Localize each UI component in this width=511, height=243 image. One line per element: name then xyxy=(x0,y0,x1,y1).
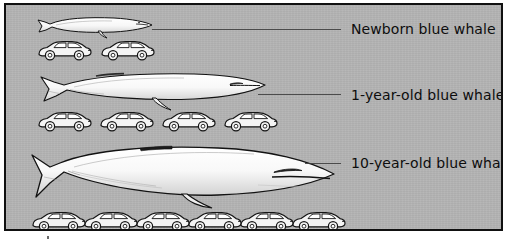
leader-line-one-year-old xyxy=(258,94,341,95)
car-icon xyxy=(238,209,295,231)
car-icon xyxy=(30,209,87,231)
car-icon xyxy=(36,109,93,133)
whale-one-year-old xyxy=(34,67,268,111)
label-newborn: Newborn blue whale xyxy=(351,21,496,37)
car-icon xyxy=(99,38,156,62)
car-icon xyxy=(186,209,243,231)
leader-line-newborn xyxy=(152,29,341,30)
whale-newborn xyxy=(36,13,154,39)
car-icon xyxy=(98,109,155,133)
leader-line-ten-year-old xyxy=(305,163,341,164)
figure-panel: Newborn blue whale xyxy=(4,3,503,231)
label-one-year-old: 1-year-old blue whale xyxy=(351,87,503,103)
car-icon xyxy=(82,209,139,231)
page-tick-mark xyxy=(47,236,49,239)
car-icon xyxy=(160,109,217,133)
car-icon xyxy=(134,209,191,231)
car-icon xyxy=(290,209,347,231)
whale-ten-year-old xyxy=(22,141,338,209)
car-icon xyxy=(222,109,279,133)
car-icon xyxy=(36,38,93,62)
label-ten-year-old: 10-year-old blue whale xyxy=(351,155,503,171)
